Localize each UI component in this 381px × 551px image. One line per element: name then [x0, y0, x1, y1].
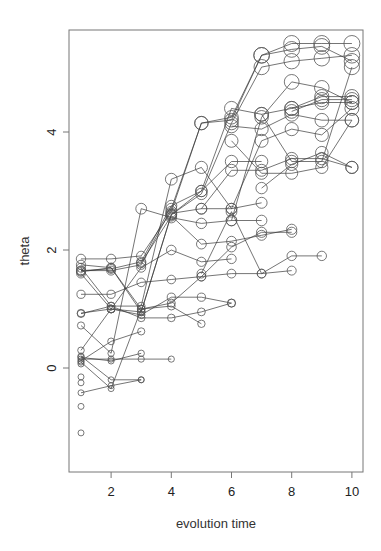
trajectory-line-traj-26: [262, 67, 352, 161]
x-tick-label: 4: [168, 484, 175, 499]
trajectory-line-traj-11: [81, 353, 141, 361]
y-axis-label: theta: [17, 236, 32, 266]
x-tick-label: 6: [228, 484, 235, 499]
trajectory-line-traj-13: [81, 356, 141, 380]
data-point-isolated: [78, 380, 84, 386]
x-tick-label: 8: [288, 484, 295, 499]
trajectory-line-traj-7: [81, 250, 232, 313]
trajectory-line-traj-24: [232, 114, 352, 129]
data-points: [76, 36, 360, 436]
x-axis: 246810: [107, 472, 359, 499]
trajectory-line-traj-4: [81, 97, 352, 271]
data-point-isolated: [78, 430, 84, 436]
x-tick-label: 2: [107, 484, 114, 499]
trajectory-line-traj-1: [81, 44, 352, 259]
trajectory-line-traj-8: [81, 209, 262, 354]
trajectory-chart: 246810 024 evolution time theta: [0, 0, 381, 551]
data-point-isolated: [78, 403, 84, 409]
y-tick-label: 2: [44, 246, 59, 253]
trajectory-line-traj-14: [81, 380, 141, 393]
trajectory-lines: [81, 44, 352, 393]
y-tick-label: 0: [44, 364, 59, 371]
data-point: [287, 224, 297, 234]
data-point-isolated: [78, 374, 84, 380]
x-axis-label: evolution time: [176, 516, 256, 531]
y-tick-label: 4: [44, 128, 59, 135]
trajectory-line-traj-3: [81, 55, 352, 312]
trajectory-line-traj-22: [201, 159, 352, 209]
x-tick-label: 10: [345, 484, 359, 499]
y-axis: 024: [44, 128, 69, 371]
